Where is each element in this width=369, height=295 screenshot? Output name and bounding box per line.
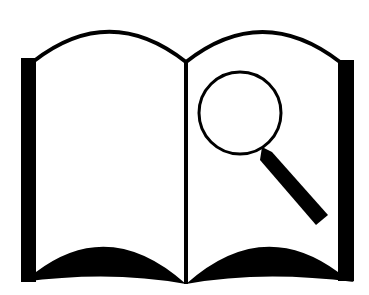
open-book-icon — [21, 32, 354, 284]
book-search-icon — [0, 0, 369, 295]
magnifying-glass-icon — [199, 72, 328, 225]
